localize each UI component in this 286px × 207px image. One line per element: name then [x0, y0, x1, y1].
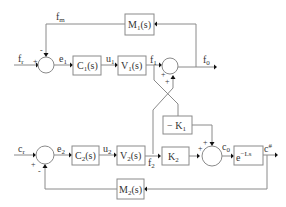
- label-c-hash: c#: [264, 142, 272, 154]
- arrow-icon: [214, 65, 217, 70]
- sign-plus-2b: +: [165, 77, 170, 86]
- arrow-icon: [275, 153, 278, 158]
- arrow-icon: [158, 154, 161, 159]
- sign-plus-4b: +: [203, 138, 208, 147]
- label-f2: f2: [148, 157, 155, 170]
- coupling-line-f1: [154, 65, 178, 122]
- arrow-icon: [171, 75, 176, 79]
- summing-junction-4: [202, 146, 222, 166]
- signal-fm-line: [46, 24, 125, 53]
- sign-minus-3: -: [38, 167, 41, 176]
- arrow-icon: [210, 142, 215, 146]
- summing-junction-1: [38, 57, 54, 73]
- arrow-icon: [44, 53, 49, 57]
- arrow-icon: [197, 154, 200, 159]
- sign-plus-1: +: [33, 57, 38, 66]
- label-fm: fm: [56, 11, 65, 24]
- label-u1: u1: [106, 53, 115, 66]
- summing-junction-3: [36, 146, 54, 164]
- sign-minus-1: -: [40, 46, 43, 55]
- label-e2: e2: [57, 143, 65, 156]
- signal-k1-out-line: [192, 125, 212, 142]
- sign-plus-3: +: [31, 160, 36, 169]
- signal-m2-out-line: [45, 168, 117, 189]
- label-cr: cr: [18, 143, 25, 156]
- label-u2: u2: [103, 143, 112, 156]
- block-diagram: fm fr + - e1 C1(s) u1 V1(s) M1(s) f1 + +…: [0, 0, 286, 207]
- label-c0: c0: [222, 141, 230, 154]
- arrow-icon: [43, 164, 48, 168]
- label-f0: f0: [203, 54, 210, 67]
- label-e1: e1: [59, 53, 67, 66]
- label-fr: fr: [18, 53, 24, 66]
